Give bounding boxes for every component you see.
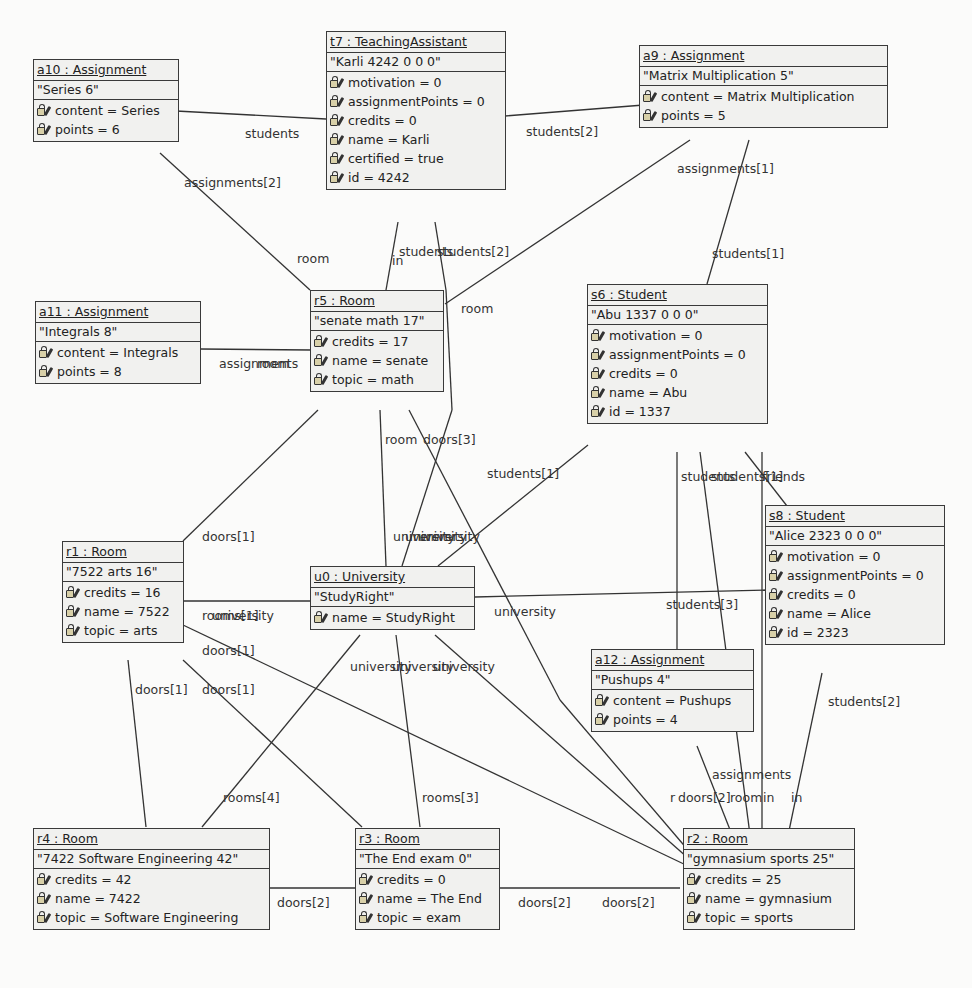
edge-label: room: [461, 302, 493, 316]
attribute-icon: [590, 329, 607, 342]
edge-label: students[1]: [712, 247, 784, 261]
edge-label: assignments[2]: [184, 176, 281, 190]
attribute-icon: [358, 911, 375, 924]
object-title: r1 : Room: [63, 542, 183, 563]
attribute: credits = 25: [686, 870, 852, 889]
attribute: name = StudyRight: [313, 608, 472, 627]
attribute-icon: [329, 95, 346, 108]
attribute: motivation = 0: [590, 326, 765, 345]
object-u0[interactable]: u0 : University "StudyRight" name = Stud…: [310, 566, 475, 630]
object-r1[interactable]: r1 : Room "7522 arts 16" credits = 16 na…: [62, 541, 184, 643]
object-title: a9 : Assignment: [640, 46, 887, 67]
attribute: credits = 16: [65, 583, 181, 602]
object-t7[interactable]: t7 : TeachingAssistant "Karli 4242 0 0 0…: [326, 31, 506, 190]
attribute: points = 8: [38, 362, 198, 381]
object-repr: "Pushups 4": [592, 671, 753, 690]
attribute: name = senate: [313, 351, 441, 370]
attribute-icon: [313, 373, 330, 386]
object-s6[interactable]: s6 : Student "Abu 1337 0 0 0" motivation…: [587, 284, 768, 424]
attribute: credits = 17: [313, 332, 441, 351]
edge-label: assignments: [712, 768, 791, 782]
attribute: points = 4: [594, 710, 751, 729]
object-title: r5 : Room: [311, 291, 443, 312]
attribute-icon: [594, 713, 611, 726]
attribute: content = Integrals: [38, 343, 198, 362]
edge-label: doors[2]: [602, 896, 655, 910]
attribute-icon: [590, 367, 607, 380]
attribute-icon: [686, 892, 703, 905]
attribute: topic = math: [313, 370, 441, 389]
attribute-icon: [329, 76, 346, 89]
attribute-icon: [358, 873, 375, 886]
edge-label: doors[1]: [202, 530, 255, 544]
edge-label: room: [297, 252, 329, 266]
object-title: r4 : Room: [34, 829, 269, 850]
attribute-icon: [590, 348, 607, 361]
attribute: name = The End: [358, 889, 497, 908]
object-title: r2 : Room: [684, 829, 854, 850]
attribute-icon: [329, 114, 346, 127]
attribute-icon: [594, 694, 611, 707]
attribute: id = 4242: [329, 168, 503, 187]
edge-label: room: [730, 791, 762, 805]
edge-label: doors[3]: [423, 433, 476, 447]
object-a11[interactable]: a11 : Assignment "Integrals 8" content =…: [35, 301, 201, 384]
edge-label: friends: [762, 470, 805, 484]
attribute: credits = 42: [36, 870, 267, 889]
object-a10[interactable]: a10 : Assignment "Series 6" content = Se…: [33, 59, 179, 142]
attribute: topic = arts: [65, 621, 181, 640]
edge-label: students[2]: [437, 245, 509, 259]
attribute: motivation = 0: [768, 547, 942, 566]
attribute-icon: [36, 911, 53, 924]
attribute: credits = 0: [358, 870, 497, 889]
attribute: assignmentPoints = 0: [768, 566, 942, 585]
edge-label: in: [763, 791, 774, 805]
edge-label: doors[2]: [518, 896, 571, 910]
attribute: assignmentPoints = 0: [590, 345, 765, 364]
attribute: name = 7422: [36, 889, 267, 908]
attribute-icon: [768, 607, 785, 620]
attribute: motivation = 0: [329, 73, 503, 92]
object-r3[interactable]: r3 : Room "The End exam 0" credits = 0 n…: [355, 828, 500, 930]
edge-label: doors[1]: [202, 683, 255, 697]
edge-label: students[3]: [666, 598, 738, 612]
object-repr: "Integrals 8": [36, 323, 200, 342]
attribute-icon: [329, 133, 346, 146]
attribute-icon: [768, 550, 785, 563]
object-r4[interactable]: r4 : Room "7422 Software Engineering 42"…: [33, 828, 270, 930]
object-repr: "gymnasium sports 25": [684, 850, 854, 869]
edge-label: students[1]: [487, 467, 559, 481]
attribute-icon: [65, 586, 82, 599]
edge-label: room: [385, 433, 417, 447]
attribute: credits = 0: [329, 111, 503, 130]
object-s8[interactable]: s8 : Student "Alice 2323 0 0 0" motivati…: [765, 505, 945, 645]
attribute: name = gymnasium: [686, 889, 852, 908]
object-repr: "senate math 17": [311, 312, 443, 331]
object-a12[interactable]: a12 : Assignment "Pushups 4" content = P…: [591, 649, 754, 732]
object-title: t7 : TeachingAssistant: [327, 32, 505, 53]
attribute-icon: [590, 405, 607, 418]
object-title: a12 : Assignment: [592, 650, 753, 671]
edge-label: room: [257, 357, 289, 371]
edge-label: university: [418, 530, 480, 544]
edge-label: university: [433, 660, 495, 674]
object-title: a10 : Assignment: [34, 60, 178, 81]
object-a9[interactable]: a9 : Assignment "Matrix Multiplication 5…: [639, 45, 888, 128]
attribute-icon: [36, 873, 53, 886]
edge-label: university: [212, 609, 274, 623]
edge-label: students: [245, 127, 299, 141]
object-repr: "7522 arts 16": [63, 563, 183, 582]
attribute: topic = sports: [686, 908, 852, 927]
attribute-icon: [642, 109, 659, 122]
attribute-icon: [590, 386, 607, 399]
attribute-icon: [642, 90, 659, 103]
attribute: name = Karli: [329, 130, 503, 149]
attribute-icon: [36, 892, 53, 905]
object-r5[interactable]: r5 : Room "senate math 17" credits = 17 …: [310, 290, 444, 392]
object-r2[interactable]: r2 : Room "gymnasium sports 25" credits …: [683, 828, 855, 930]
attribute: topic = exam: [358, 908, 497, 927]
attribute: credits = 0: [590, 364, 765, 383]
edge-label: assignments[1]: [677, 162, 774, 176]
object-repr: "7422 Software Engineering 42": [34, 850, 269, 869]
attribute: certified = true: [329, 149, 503, 168]
